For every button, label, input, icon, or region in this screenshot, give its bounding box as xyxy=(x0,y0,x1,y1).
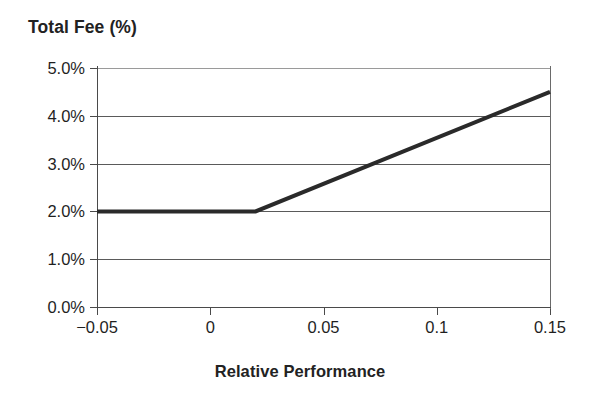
x-axis-line xyxy=(97,307,551,308)
x-tick-mark xyxy=(324,307,325,315)
y-tick-label: 5.0% xyxy=(47,59,85,78)
x-tick-label: 0.1 xyxy=(425,318,448,337)
data-line xyxy=(97,92,550,211)
y-tick-label: 3.0% xyxy=(47,154,85,173)
plot-right-border xyxy=(550,66,551,309)
x-tick-mark xyxy=(210,307,211,315)
x-tick-label: 0 xyxy=(206,318,215,337)
x-tick-mark xyxy=(437,307,438,315)
y-tick-label: 2.0% xyxy=(47,202,85,221)
data-series-layer xyxy=(97,68,550,307)
y-tick-label: 4.0% xyxy=(47,106,85,125)
y-axis-title: Total Fee (%) xyxy=(28,17,137,38)
plot-area: 0.0%1.0%2.0%3.0%4.0%5.0% −0.0500.050.10.… xyxy=(97,68,550,307)
x-axis-title: Relative Performance xyxy=(0,362,600,381)
y-tick-label: 1.0% xyxy=(47,250,85,269)
y-tick-label: 0.0% xyxy=(47,298,85,317)
x-tick-label: 0.05 xyxy=(307,318,339,337)
fee-schedule-chart: Total Fee (%) 0.0%1.0%2.0%3.0%4.0%5.0% −… xyxy=(0,0,600,407)
x-tick-label: −0.05 xyxy=(76,318,118,337)
x-tick-label: 0.15 xyxy=(534,318,566,337)
